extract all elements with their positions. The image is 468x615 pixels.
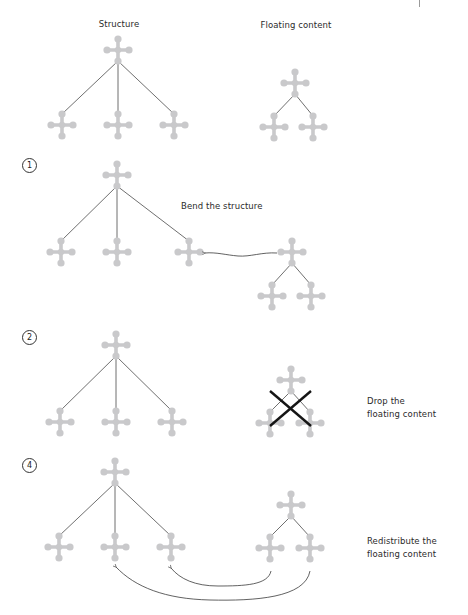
drop-floating-root-node-icon [276, 365, 305, 394]
overview-floating-child-node-icon [298, 112, 327, 141]
overview-structure-root-node-icon [103, 35, 132, 64]
diagram-canvas [0, 0, 468, 615]
bend-floating-edge [292, 263, 311, 285]
drop-structure-edge [116, 356, 172, 411]
step-number-4: 4 [22, 458, 37, 473]
redistribute-structure-child-node-icon [156, 532, 185, 561]
step-4-label-line1: Redistribute the [367, 535, 437, 548]
bend-structure-child-node-icon [102, 237, 131, 266]
redistribute-floating-child-node-icon [295, 533, 324, 562]
step-2-label-line1: Drop the [367, 395, 405, 408]
bend-floating-edge [272, 263, 292, 285]
bend-structure-root-node-icon [102, 160, 131, 189]
step-2-label-line2: floating content [367, 408, 436, 421]
redistribute-structure-child-node-icon [100, 532, 129, 561]
step-1-label: Bend the structure [181, 201, 263, 211]
structure-header: Structure [99, 19, 139, 29]
redistribute-structure-edge [59, 483, 115, 536]
redistribute-floating-edge [291, 516, 310, 537]
bend-structure-child-node-icon [46, 237, 75, 266]
bend-structure-edge [61, 186, 117, 241]
x-mark-icon [270, 391, 311, 426]
overview-floating-edge [274, 94, 295, 116]
overview-floating-root-node-icon [280, 68, 309, 97]
redistribute-structure-root-node-icon [100, 457, 129, 486]
overview-structure-child-node-icon [47, 110, 76, 139]
drop-structure-root-node-icon [101, 330, 130, 359]
overview-floating-child-node-icon [259, 112, 288, 141]
redistribute-structure-child-node-icon [44, 532, 73, 561]
drop-floating-child-node-icon [255, 408, 284, 437]
overview-structure-edge [118, 61, 174, 114]
overview-floating-edge [295, 94, 313, 116]
redistribute-floating-edge [270, 516, 291, 537]
bend-floating-root-node-icon [277, 237, 306, 266]
curved-arrow-icon [205, 253, 277, 256]
drop-structure-edge [60, 356, 116, 411]
step-number-2: 2 [22, 330, 37, 345]
bend-floating-child-node-icon [257, 281, 286, 310]
drop-structure-child-node-icon [101, 407, 130, 436]
drop-structure-child-node-icon [157, 407, 186, 436]
bend-structure-edge [117, 186, 189, 241]
overview-structure-child-node-icon [103, 110, 132, 139]
drop-structure-child-node-icon [45, 407, 74, 436]
curved-arrow-icon [116, 567, 310, 600]
redistribute-floating-root-node-icon [276, 490, 305, 519]
redistribute-floating-child-node-icon [255, 533, 284, 562]
curved-arrow-icon [171, 568, 271, 586]
tree-nodes [44, 35, 327, 562]
step-number-1: 1 [22, 158, 37, 173]
overview-structure-child-node-icon [159, 110, 188, 139]
redistribute-structure-edge [115, 483, 171, 536]
bend-floating-child-node-icon [296, 281, 325, 310]
step-4-label-line2: floating content [367, 548, 436, 561]
bend-structure-child-node-icon [174, 237, 203, 266]
drop-floating-child-node-icon [295, 408, 324, 437]
floating-content-header: Floating content [261, 20, 332, 30]
overview-structure-edge [62, 61, 118, 114]
